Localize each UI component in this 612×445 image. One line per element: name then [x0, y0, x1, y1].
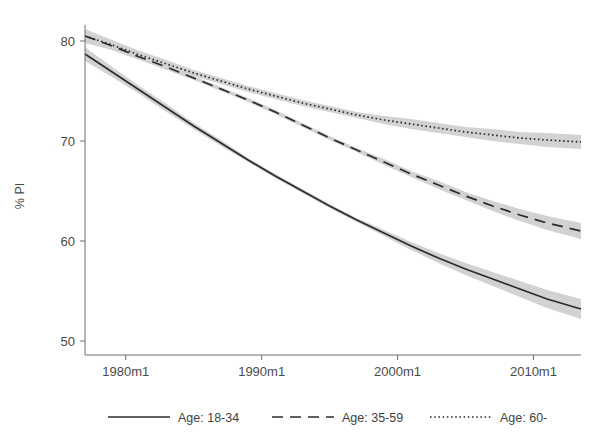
- y-tick-label: 70: [61, 134, 75, 149]
- legend-label: Age: 18-34: [178, 411, 239, 425]
- y-axis-label: % PI: [13, 183, 27, 209]
- line-chart: 50607080 1980m11990m12000m12010m1 % PI A…: [0, 0, 612, 445]
- chart-figure: 50607080 1980m11990m12000m12010m1 % PI A…: [0, 0, 612, 445]
- legend-label: Age: 35-59: [342, 411, 403, 425]
- x-tick-label: 2010m1: [510, 364, 557, 379]
- y-tick-label: 60: [61, 234, 75, 249]
- x-tick-label: 2000m1: [374, 364, 421, 379]
- x-tick-label: 1990m1: [238, 364, 285, 379]
- x-tick-label: 1980m1: [102, 364, 149, 379]
- y-tick-label: 80: [61, 34, 75, 49]
- legend-label: Age: 60-: [500, 411, 547, 425]
- y-tick-label: 50: [61, 334, 75, 349]
